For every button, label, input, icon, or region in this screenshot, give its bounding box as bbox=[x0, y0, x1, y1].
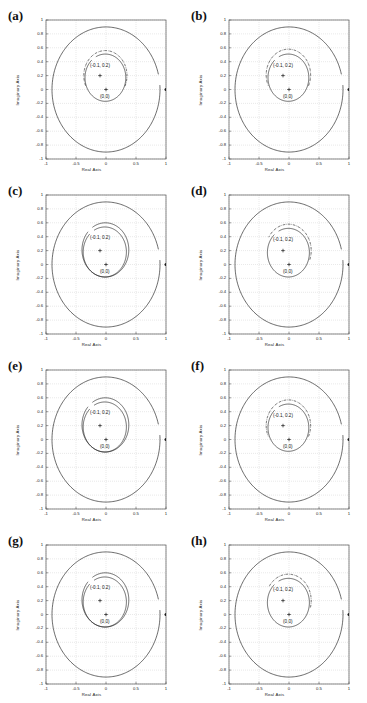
panel-letter: (a) bbox=[8, 8, 23, 24]
y-axis-label: Imaginary Axis bbox=[198, 74, 203, 105]
panel-a: (a)(-0.1, 0.2)(0,0)10.80.60.40.20-0.2-0.… bbox=[0, 2, 183, 178]
ytick-label: 0.2 bbox=[22, 598, 43, 603]
xtick-label: 0 bbox=[96, 336, 116, 341]
marker-pole-offset bbox=[98, 74, 102, 78]
label-center-upper: (-0.1, 0.2) bbox=[90, 585, 110, 590]
ytick-label: 0 bbox=[22, 437, 43, 442]
ytick-label: 0.4 bbox=[205, 234, 226, 239]
label-center-upper: (-0.1, 0.2) bbox=[273, 63, 293, 68]
inner-locus-dashdot bbox=[269, 224, 311, 259]
xtick-label: -0.5 bbox=[66, 686, 86, 691]
label-center-upper: (-0.1, 0.2) bbox=[273, 587, 293, 592]
xtick-label: 1 bbox=[339, 161, 359, 166]
ytick-label: 1 bbox=[205, 367, 226, 372]
ytick-label: 0.6 bbox=[205, 220, 226, 225]
label-center-upper: (-0.1, 0.2) bbox=[90, 410, 110, 415]
ytick-label: -0.4 bbox=[205, 464, 226, 469]
ytick-label: -0.4 bbox=[205, 114, 226, 119]
xtick-label: -0.5 bbox=[66, 511, 86, 516]
ytick-label: -0.2 bbox=[22, 275, 43, 280]
xtick-label: 0 bbox=[96, 511, 116, 516]
marker-pole-origin bbox=[104, 88, 108, 92]
marker-unit-point bbox=[348, 263, 351, 266]
marker-pole-origin bbox=[104, 263, 108, 267]
xtick-label: 0.5 bbox=[309, 336, 329, 341]
xtick-label: 1 bbox=[339, 336, 359, 341]
panel-f: (f)(-0.1, 0.2)(0,0)10.80.60.40.20-0.2-0.… bbox=[183, 352, 366, 528]
ytick-label: -0.6 bbox=[205, 128, 226, 133]
ytick-label: -0.2 bbox=[205, 275, 226, 280]
ytick-label: 0.2 bbox=[205, 423, 226, 428]
xtick-label: 1 bbox=[156, 686, 176, 691]
y-axis-label: Imaginary Axis bbox=[15, 74, 20, 105]
panel-letter: (e) bbox=[8, 358, 22, 374]
ytick-label: 1 bbox=[205, 542, 226, 547]
ytick-label: 0.2 bbox=[205, 73, 226, 78]
ytick-label: -0.2 bbox=[205, 450, 226, 455]
x-axis-label: Real Axis bbox=[0, 167, 183, 172]
marker-pole-offset bbox=[281, 249, 285, 253]
ytick-label: 0.8 bbox=[22, 556, 43, 561]
xtick-label: -1 bbox=[36, 511, 56, 516]
ytick-label: 0.6 bbox=[22, 220, 43, 225]
x-axis-label: Real Axis bbox=[0, 517, 183, 522]
xtick-label: 0.5 bbox=[309, 161, 329, 166]
x-axis-label: Real Axis bbox=[183, 342, 366, 347]
ytick-label: -0.2 bbox=[205, 100, 226, 105]
ytick-label: 0.2 bbox=[22, 423, 43, 428]
xtick-label: -0.5 bbox=[249, 336, 269, 341]
ytick-label: 0.6 bbox=[22, 395, 43, 400]
marker-pole-origin bbox=[104, 438, 108, 442]
xtick-label: -1 bbox=[219, 336, 239, 341]
xtick-label: 0.5 bbox=[126, 511, 146, 516]
xtick-label: -1 bbox=[219, 511, 239, 516]
marker-pole-offset bbox=[98, 599, 102, 603]
y-axis-label: Imaginary Axis bbox=[15, 599, 20, 630]
y-axis-label: Imaginary Axis bbox=[198, 599, 203, 630]
ytick-label: -0.2 bbox=[22, 625, 43, 630]
panel-letter: (c) bbox=[8, 183, 22, 199]
ytick-label: 1 bbox=[22, 367, 43, 372]
label-center-upper: (-0.1, 0.2) bbox=[90, 235, 110, 240]
marker-unit-point bbox=[165, 613, 168, 616]
xtick-label: -0.5 bbox=[249, 161, 269, 166]
ytick-label: 0 bbox=[205, 87, 226, 92]
x-axis-label: Real Axis bbox=[0, 692, 183, 697]
xtick-label: 0 bbox=[96, 161, 116, 166]
marker-pole-origin bbox=[287, 613, 291, 617]
panel-b: (b)(-0.1, 0.2)(0,0)10.80.60.40.20-0.2-0.… bbox=[183, 2, 366, 178]
ytick-label: 0 bbox=[22, 87, 43, 92]
ytick-label: 0 bbox=[205, 612, 226, 617]
xtick-label: 0.5 bbox=[309, 686, 329, 691]
ytick-label: 0.4 bbox=[205, 584, 226, 589]
ytick-label: -0.8 bbox=[205, 317, 226, 322]
panel-letter: (f) bbox=[191, 358, 204, 374]
xtick-label: -0.5 bbox=[66, 336, 86, 341]
ytick-label: -0.4 bbox=[205, 639, 226, 644]
ytick-label: -0.2 bbox=[22, 450, 43, 455]
xtick-label: -0.5 bbox=[249, 686, 269, 691]
marker-pole-offset bbox=[98, 424, 102, 428]
xtick-label: -1 bbox=[219, 686, 239, 691]
panel-letter: (g) bbox=[8, 533, 23, 549]
ytick-label: 0.4 bbox=[22, 234, 43, 239]
panel-h: (h)(-0.1, 0.2)(0,0)10.80.60.40.20-0.2-0.… bbox=[183, 527, 366, 703]
ytick-label: 0.2 bbox=[22, 73, 43, 78]
xtick-label: 0.5 bbox=[126, 161, 146, 166]
label-center-upper: (-0.1, 0.2) bbox=[90, 63, 110, 68]
x-axis-label: Real Axis bbox=[183, 692, 366, 697]
ytick-label: 0.8 bbox=[205, 381, 226, 386]
ytick-label: 0.8 bbox=[22, 381, 43, 386]
ytick-label: 0.6 bbox=[205, 395, 226, 400]
ytick-label: -0.8 bbox=[22, 492, 43, 497]
panel-g: (g)(-0.1, 0.2)(0,0)10.80.60.40.20-0.2-0.… bbox=[0, 527, 183, 703]
ytick-label: 0 bbox=[205, 437, 226, 442]
xtick-label: 1 bbox=[339, 686, 359, 691]
marker-pole-origin bbox=[104, 613, 108, 617]
marker-unit-point bbox=[348, 438, 351, 441]
ytick-label: 0.8 bbox=[22, 206, 43, 211]
marker-unit-point bbox=[348, 613, 351, 616]
marker-pole-offset bbox=[281, 424, 285, 428]
marker-unit-point bbox=[165, 438, 168, 441]
ytick-label: 0 bbox=[22, 612, 43, 617]
